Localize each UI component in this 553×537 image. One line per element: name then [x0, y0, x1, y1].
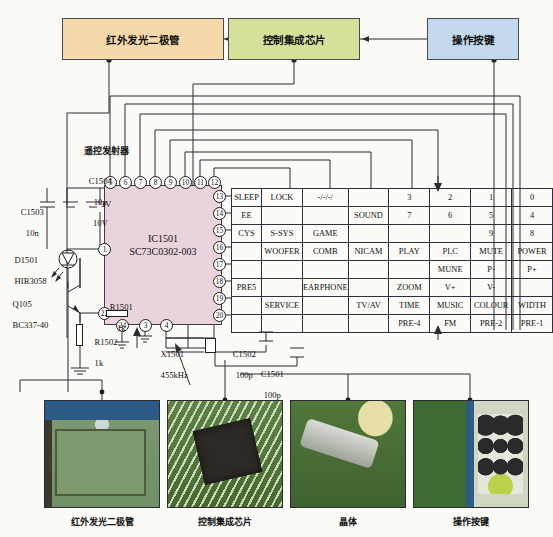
d1501-value: HIR3058: [15, 276, 47, 286]
matrix-cell[interactable]: LOCK: [261, 189, 302, 207]
pin-9[interactable]: 9: [164, 176, 177, 189]
matrix-cell[interactable]: 8: [512, 225, 553, 243]
matrix-cell[interactable]: [348, 315, 389, 333]
pin-12[interactable]: 12: [208, 176, 221, 189]
matrix-cell[interactable]: S-SYS: [261, 225, 302, 243]
matrix-cell[interactable]: -/-/-/: [302, 189, 348, 207]
matrix-cell[interactable]: FM: [430, 315, 471, 333]
x1501-label: X1501 455kHz: [152, 338, 188, 391]
pin-14[interactable]: 14: [213, 207, 226, 220]
matrix-cell[interactable]: TIME: [389, 297, 430, 315]
matrix-cell[interactable]: MUSIC: [430, 297, 471, 315]
matrix-cell[interactable]: [348, 189, 389, 207]
matrix-cell[interactable]: EE: [232, 207, 262, 225]
matrix-cell[interactable]: CYS: [232, 225, 262, 243]
matrix-cell[interactable]: V+: [430, 279, 471, 297]
matrix-cell[interactable]: [261, 315, 302, 333]
matrix-cell[interactable]: [232, 297, 262, 315]
matrix-cell[interactable]: [348, 261, 389, 279]
pin-10[interactable]: 10: [179, 176, 192, 189]
pin-20[interactable]: 20: [213, 309, 226, 322]
c1504-ref: C1504: [89, 176, 112, 186]
pin-13[interactable]: 13: [213, 190, 226, 203]
matrix-cell[interactable]: PRE-2: [471, 315, 512, 333]
matrix-cell[interactable]: V-: [471, 279, 512, 297]
matrix-cell[interactable]: WOOFER: [261, 243, 302, 261]
pin-17[interactable]: 17: [213, 258, 226, 271]
matrix-cell[interactable]: COMB: [302, 243, 348, 261]
r1502-label: R1502 1k: [86, 326, 118, 379]
matrix-cell[interactable]: [430, 225, 471, 243]
matrix-cell[interactable]: 7: [389, 207, 430, 225]
matrix-row: SERVICE TV/AV TIME MUSIC COLOUR WIDTH: [232, 297, 553, 315]
matrix-cell[interactable]: PRE-1: [512, 315, 553, 333]
matrix-cell[interactable]: [302, 297, 348, 315]
matrix-cell[interactable]: [389, 225, 430, 243]
c1502-ref: C1502: [233, 349, 256, 359]
matrix-cell[interactable]: 4: [512, 207, 553, 225]
matrix-cell[interactable]: SERVICE: [261, 297, 302, 315]
pin-15[interactable]: 15: [213, 224, 226, 237]
pin-16[interactable]: 16: [213, 241, 226, 254]
photo-keypad: [413, 400, 529, 508]
block-control-ic[interactable]: 控制集成芯片: [228, 18, 360, 60]
matrix-cell[interactable]: P+: [512, 261, 553, 279]
matrix-cell[interactable]: 5: [471, 207, 512, 225]
matrix-cell[interactable]: POWER: [512, 243, 553, 261]
matrix-cell[interactable]: [389, 261, 430, 279]
matrix-cell[interactable]: PRE5: [232, 279, 262, 297]
matrix-cell[interactable]: 2: [430, 189, 471, 207]
matrix-cell[interactable]: 9: [471, 225, 512, 243]
matrix-cell[interactable]: 3: [389, 189, 430, 207]
matrix-cell[interactable]: [348, 279, 389, 297]
matrix-cell[interactable]: WIDTH: [512, 297, 553, 315]
section-label-transmitter: 遥控发射器: [84, 146, 129, 157]
matrix-cell[interactable]: SLEEP: [232, 189, 262, 207]
block-infrared-led[interactable]: 红外发光二极管: [62, 18, 224, 60]
c1503-ref: C1503: [21, 207, 44, 217]
matrix-cell[interactable]: MUTE: [471, 243, 512, 261]
matrix-cell[interactable]: GAME: [302, 225, 348, 243]
matrix-cell[interactable]: COLOUR: [471, 297, 512, 315]
photo-caption-crystal: 晶体: [290, 515, 406, 528]
matrix-cell[interactable]: PRE-4: [389, 315, 430, 333]
matrix-cell[interactable]: SOUND: [348, 207, 389, 225]
pin-11[interactable]: 11: [194, 176, 207, 189]
matrix-cell[interactable]: [232, 315, 262, 333]
pin-18[interactable]: 18: [213, 275, 226, 288]
matrix-cell[interactable]: [302, 261, 348, 279]
c1504-rating: 10V: [93, 218, 108, 228]
block-operation-keys[interactable]: 操作按键: [427, 18, 519, 60]
photo-caption-infrared-led: 红外发光二极管: [44, 515, 160, 528]
pin-1[interactable]: 1: [98, 243, 111, 256]
pin-3[interactable]: 3: [139, 319, 152, 332]
matrix-cell[interactable]: 0: [512, 189, 553, 207]
matrix-cell[interactable]: PLC: [430, 243, 471, 261]
matrix-cell[interactable]: PLAY: [389, 243, 430, 261]
matrix-row: SLEEP LOCK -/-/-/ 3 2 1 0: [232, 189, 553, 207]
matrix-cell[interactable]: [512, 279, 553, 297]
matrix-cell[interactable]: [302, 207, 348, 225]
matrix-cell[interactable]: [302, 315, 348, 333]
pin-4[interactable]: 4: [160, 319, 173, 332]
matrix-cell[interactable]: [348, 225, 389, 243]
matrix-cell[interactable]: P-: [471, 261, 512, 279]
matrix-cell[interactable]: [261, 279, 302, 297]
pin-8[interactable]: 8: [149, 176, 162, 189]
matrix-cell[interactable]: NICAM: [348, 243, 389, 261]
matrix-cell[interactable]: [232, 261, 262, 279]
x1501-value: 455kHz: [161, 370, 188, 380]
matrix-cell[interactable]: [261, 207, 302, 225]
key-matrix-table: SLEEP LOCK -/-/-/ 3 2 1 0 EE SOUND 7 6 5…: [231, 188, 553, 333]
matrix-cell[interactable]: EARPHONE: [302, 279, 348, 297]
matrix-cell[interactable]: TV/AV: [348, 297, 389, 315]
pin-7[interactable]: 7: [134, 176, 147, 189]
matrix-cell[interactable]: [261, 261, 302, 279]
matrix-cell[interactable]: ZOOM: [389, 279, 430, 297]
pin-19[interactable]: 19: [213, 292, 226, 305]
matrix-cell[interactable]: 1: [471, 189, 512, 207]
matrix-cell[interactable]: [232, 243, 262, 261]
matrix-cell[interactable]: 6: [430, 207, 471, 225]
matrix-cell[interactable]: MUNE: [430, 261, 471, 279]
c1501-value: 100p: [264, 390, 281, 400]
